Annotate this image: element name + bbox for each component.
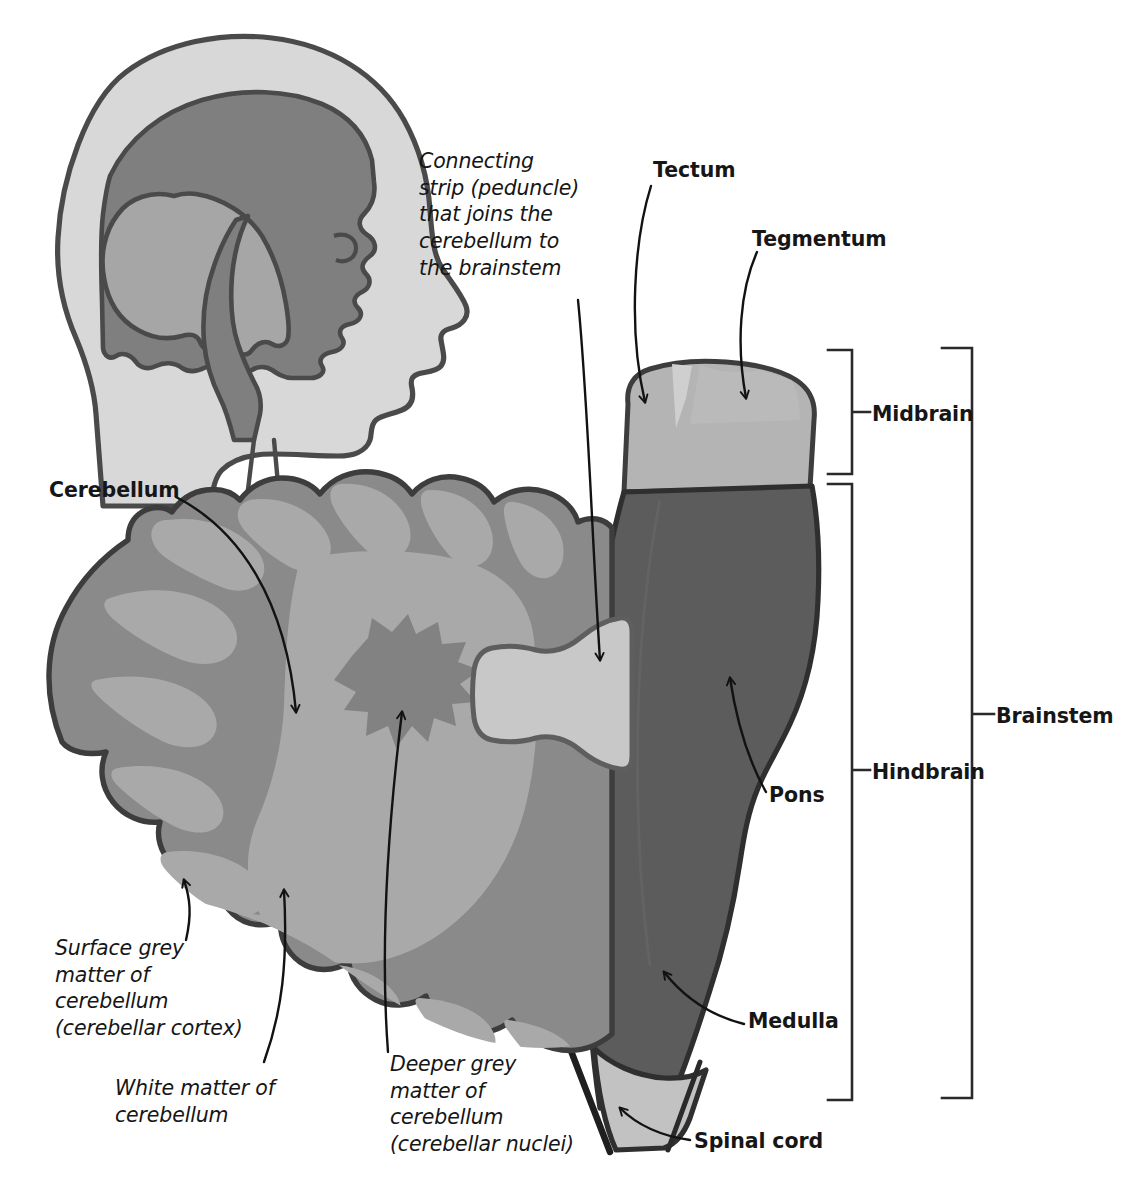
label-tectum: Tectum (653, 157, 735, 184)
head-sagittal-inset (58, 36, 467, 506)
label-hindbrain: Hindbrain (872, 759, 985, 786)
label-white-matter: White matter of cerebellum (115, 1075, 315, 1128)
label-surface-grey-matter: Surface grey matter of cerebellum (cereb… (55, 935, 270, 1042)
label-cerebellum: Cerebellum (49, 477, 180, 504)
label-midbrain: Midbrain (872, 401, 974, 428)
label-tegmentum: Tegmentum (752, 226, 887, 253)
label-brainstem: Brainstem (996, 703, 1114, 730)
label-spinal-cord: Spinal cord (694, 1128, 823, 1155)
label-medulla: Medulla (748, 1008, 839, 1035)
brain-anatomy-figure: Cerebellum Connecting strip (peduncle) t… (0, 0, 1129, 1204)
brackets (828, 348, 994, 1100)
bracket-midbrain (828, 350, 870, 474)
label-pons: Pons (769, 782, 825, 809)
bracket-brainstem (942, 348, 994, 1098)
label-peduncle: Connecting strip (peduncle) that joins t… (419, 148, 599, 281)
midbrain-structure (624, 361, 814, 492)
label-deeper-grey-matter: Deeper grey matter of cerebellum (cerebe… (390, 1051, 610, 1158)
